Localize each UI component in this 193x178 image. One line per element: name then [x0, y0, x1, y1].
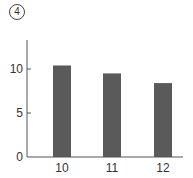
y-tick-label: 0: [16, 150, 23, 164]
y-tick-label: 10: [10, 62, 24, 76]
x-tick-label: 12: [156, 161, 170, 175]
bar-10: [53, 65, 71, 157]
x-ticks: 101112: [55, 161, 170, 175]
y-tick-label: 5: [16, 106, 23, 120]
y-ticks: 0510: [10, 62, 31, 164]
bar-12: [154, 83, 172, 157]
bar-chart: 0510 101112: [0, 0, 193, 178]
x-tick-label: 11: [106, 161, 119, 175]
bars: [53, 65, 172, 157]
bar-11: [103, 73, 121, 157]
x-tick-label: 10: [55, 161, 69, 175]
